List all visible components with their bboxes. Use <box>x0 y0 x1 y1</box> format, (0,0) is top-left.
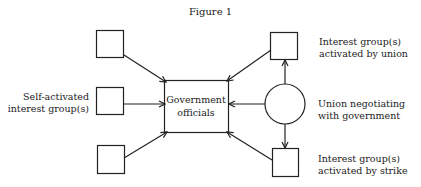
arrow-strike-interest <box>227 132 272 160</box>
strike-interest-line2: activated by strike <box>318 165 408 177</box>
strike-interest-label: Interest group(s) activated by strike <box>318 153 408 176</box>
arrow-union-interest <box>227 50 271 81</box>
arrow-top-left <box>124 55 166 82</box>
self-activated-line2: interest group(s) <box>0 103 89 115</box>
union-label: Union negotiating with government <box>318 98 405 121</box>
strike-interest-line1: Interest group(s) <box>318 153 408 165</box>
self-activated-box <box>97 88 124 115</box>
union-interest-label: Interest group(s) activated by union <box>319 36 408 59</box>
self-activated-line1: Self-activated <box>0 91 89 103</box>
bottom-left-box <box>98 146 125 174</box>
government-label: Government officials <box>164 80 228 132</box>
self-activated-label: Self-activated interest group(s) <box>0 91 89 114</box>
government-line2: officials <box>177 106 214 119</box>
union-circle <box>265 84 305 124</box>
arrow-bottom-left <box>124 132 167 158</box>
union-interest-box <box>271 33 298 60</box>
union-line1: Union negotiating <box>318 98 405 110</box>
strike-interest-box <box>273 149 299 177</box>
union-line2: with government <box>318 110 405 122</box>
union-interest-line1: Interest group(s) <box>319 36 408 48</box>
union-interest-line2: activated by union <box>319 48 408 60</box>
top-left-box <box>97 31 124 58</box>
government-line1: Government <box>166 93 226 106</box>
